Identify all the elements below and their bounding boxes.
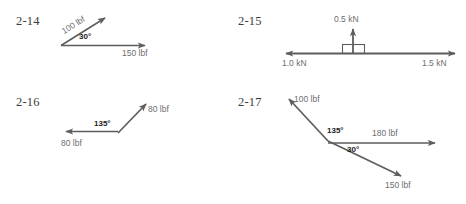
arrow-150-lbf bbox=[328, 141, 401, 176]
force-diagram-sheet: 2-14 2-15 2-16 2-17 100 lbf 30° 150 lbf … bbox=[0, 0, 466, 204]
label-angle-30-2-17: 30° bbox=[347, 145, 359, 154]
block-rectangle bbox=[343, 45, 365, 54]
figure-2-17 bbox=[289, 99, 435, 176]
label-1-5-kn-2-15: 1.5 kN bbox=[422, 58, 447, 68]
label-angle-30-2-14: 30° bbox=[79, 32, 91, 41]
problem-number-2-17: 2-17 bbox=[238, 95, 262, 110]
problem-number-2-16: 2-16 bbox=[16, 95, 40, 110]
problem-number-2-14: 2-14 bbox=[16, 14, 40, 29]
label-angle-135-2-17: 135° bbox=[327, 126, 344, 135]
label-180-lbf-2-17: 180 lbf bbox=[372, 128, 398, 138]
label-1-0-kn-2-15: 1.0 kN bbox=[282, 58, 307, 68]
label-0-5-kn-2-15: 0.5 kN bbox=[334, 14, 359, 24]
label-angle-135-2-16: 135° bbox=[94, 119, 111, 128]
arrow-80-lbf-upper bbox=[118, 104, 146, 133]
label-150-lbf-2-17: 150 lbf bbox=[385, 180, 411, 190]
label-80-lbf-upper-2-16: 80 lbf bbox=[148, 104, 169, 114]
arrow-100-lbf bbox=[289, 99, 328, 141]
problem-number-2-15: 2-15 bbox=[238, 14, 262, 29]
label-150-lbf-2-14: 150 lbf bbox=[122, 48, 148, 58]
figure-2-15 bbox=[286, 29, 455, 54]
label-80-lbf-left-2-16: 80 lbf bbox=[61, 138, 82, 148]
label-100-lbf-2-17: 100 lbf bbox=[294, 94, 320, 104]
